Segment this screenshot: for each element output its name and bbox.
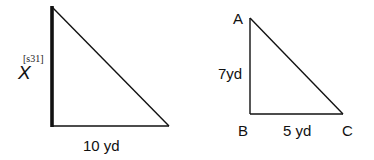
right-triangle [0, 0, 374, 160]
vertex-c-label: C [342, 123, 353, 138]
right-triangle-hypotenuse-ac [250, 18, 343, 114]
unknown-side-x-label: X [18, 63, 31, 82]
side-bc-length-label: 5 yd [283, 123, 311, 138]
vertex-b-label: B [238, 123, 248, 138]
left-base-length-label: 10 yd [83, 138, 120, 153]
vertex-a-label: A [233, 11, 243, 26]
side-ab-length-label: 7yd [218, 66, 242, 81]
similar-triangles-diagram: [s31] X 10 yd A 7yd B 5 yd C [0, 0, 374, 160]
